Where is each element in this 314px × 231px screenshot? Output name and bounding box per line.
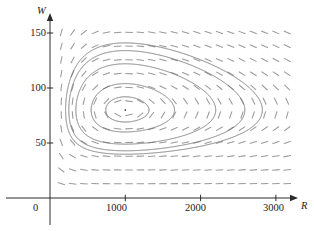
x-tick-label-3000: 3000 xyxy=(263,202,284,213)
y-tick-label-50: 50 xyxy=(36,137,47,148)
x-tick-label-1000: 1000 xyxy=(106,202,127,213)
origin-label: 0 xyxy=(33,202,38,213)
x-tick-label-2000: 2000 xyxy=(185,202,206,213)
y-tick-label-100: 100 xyxy=(30,82,46,93)
axes xyxy=(6,13,298,225)
y-tick-label-150: 150 xyxy=(30,27,46,38)
equilibrium-point xyxy=(124,109,126,111)
y-axis-label: W xyxy=(37,5,46,16)
x-axis-label: R xyxy=(301,200,307,211)
figure-canvas: 150 100 50 0 1000 2000 3000 W R xyxy=(0,0,314,231)
phase-portrait-svg xyxy=(0,0,314,231)
